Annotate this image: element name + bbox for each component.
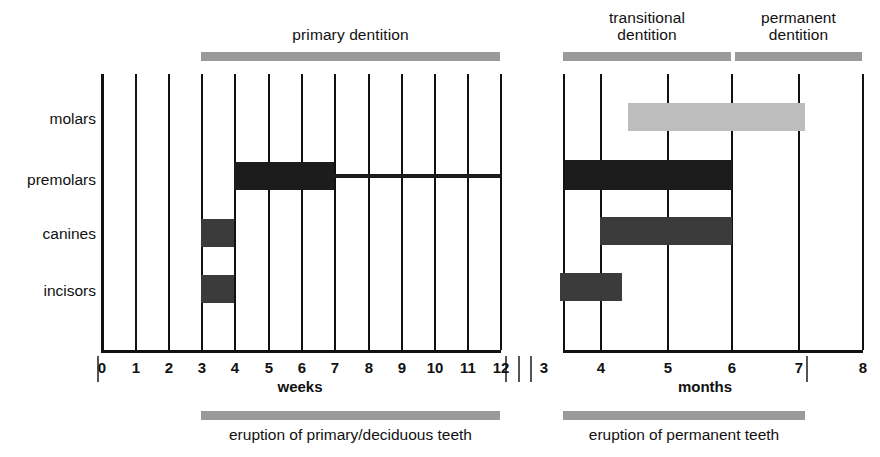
- figure-canvas: primary dentition transitional dentition…: [0, 0, 880, 457]
- panel-permanent: 3 4 5 6 7 8 months: [0, 0, 880, 400]
- gridline-month-4: [600, 74, 602, 350]
- tick-label-month-6: 6: [721, 360, 743, 376]
- bar-incisors-permanent: [560, 273, 622, 301]
- tick-month-6: [731, 341, 733, 350]
- tick-label-month-7: 7: [788, 360, 810, 376]
- tick-month-4: [600, 341, 602, 350]
- tick-month-7: [798, 341, 800, 350]
- gridline-month-8: [862, 74, 864, 350]
- caption-bar-permanent-eruption: [563, 411, 805, 420]
- bar-canines-permanent: [600, 217, 732, 245]
- right-panel-x-axis: [563, 350, 863, 353]
- bar-premolars-permanent: [565, 160, 732, 190]
- tick-label-month-3: 3: [533, 360, 555, 376]
- right-axis-start-bar-2: [530, 356, 532, 382]
- tick-label-month-4: 4: [590, 360, 612, 376]
- tick-label-month-5: 5: [657, 360, 679, 376]
- tick-month-5: [667, 341, 669, 350]
- right-axis-start-bar: [518, 356, 520, 382]
- bar-molars-permanent: [628, 103, 805, 131]
- gridline-month-3: [563, 74, 565, 350]
- caption-primary-eruption: eruption of primary/deciduous teeth: [161, 426, 540, 443]
- caption-bar-primary-eruption: [201, 411, 500, 420]
- x-axis-unit-months: months: [655, 379, 755, 395]
- tick-label-month-8: 8: [852, 360, 874, 376]
- caption-permanent-eruption: eruption of permanent teeth: [543, 426, 825, 443]
